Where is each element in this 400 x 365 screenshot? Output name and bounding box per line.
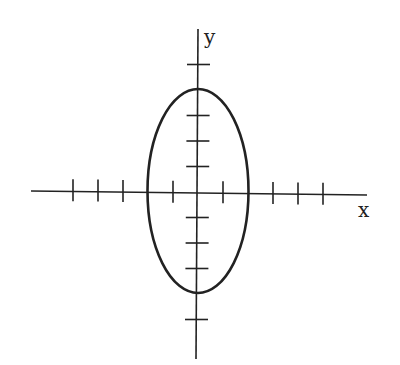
y-axis — [196, 29, 198, 359]
ellipse-diagram: y x — [0, 0, 400, 365]
x-axis — [31, 191, 367, 195]
y-axis-label: y — [203, 25, 216, 49]
x-axis-label: x — [358, 198, 370, 222]
